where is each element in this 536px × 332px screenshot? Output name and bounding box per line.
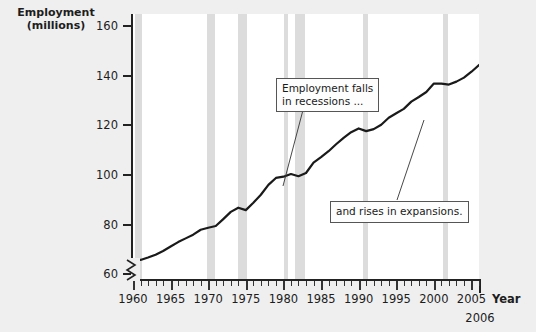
x-axis-minor-tick <box>456 281 457 286</box>
rises-in-expansions-callout: and rises in expansions. <box>330 201 469 223</box>
employment-falls-callout: Employment falls in recessions ... <box>276 78 379 112</box>
y-axis-label-slot: 60 <box>18 267 118 281</box>
x-axis-minor-tick <box>291 281 292 286</box>
y-axis-tick-label: 120 <box>18 118 118 132</box>
x-axis-tick-label: 1980 <box>263 292 303 306</box>
x-axis-minor-tick <box>216 281 217 286</box>
x-axis-minor-tick <box>193 281 194 286</box>
x-axis-minor-tick <box>336 281 337 286</box>
x-axis-minor-tick <box>268 281 269 286</box>
x-axis-minor-tick <box>389 281 390 286</box>
y-axis-tick-label: 140 <box>18 69 118 83</box>
x-axis-minor-tick <box>238 281 239 286</box>
x-axis-minor-tick <box>141 281 142 286</box>
y-axis-tick-label: 100 <box>18 168 118 182</box>
x-axis-minor-tick <box>366 281 367 286</box>
x-axis-major-tick <box>208 281 210 290</box>
x-axis-minor-tick <box>344 281 345 286</box>
x-axis-minor-tick <box>441 281 442 286</box>
x-axis-minor-tick <box>276 281 277 286</box>
x-axis-minor-tick <box>223 281 224 286</box>
x-axis-minor-tick <box>231 281 232 286</box>
x-axis-minor-tick <box>306 281 307 286</box>
chart-figure: Employment (millions) 6080100120140160 1… <box>0 0 536 332</box>
y-axis-label-slot: 140 <box>18 69 118 83</box>
x-axis-major-tick <box>359 281 361 290</box>
y-axis-tick-label: 80 <box>18 218 118 232</box>
y-axis-tick-label: 160 <box>18 19 118 33</box>
x-axis-minor-tick <box>374 281 375 286</box>
y-axis-label-slot: 100 <box>18 168 118 182</box>
employment-line-series <box>133 14 479 279</box>
x-axis-minor-tick <box>381 281 382 286</box>
y-axis-label-slot: 160 <box>18 19 118 33</box>
x-axis-major-tick <box>471 281 473 290</box>
y-axis-label-slot: 80 <box>18 218 118 232</box>
x-axis-minor-tick <box>178 281 179 286</box>
x-axis-minor-tick <box>186 281 187 286</box>
x-axis-major-tick <box>434 281 436 290</box>
x-axis-major-tick <box>133 281 135 290</box>
x-axis-end-label: 2006 <box>460 311 500 325</box>
y-axis-tick <box>123 224 131 226</box>
x-axis-major-tick <box>246 281 248 290</box>
x-axis-minor-tick <box>351 281 352 286</box>
x-axis-minor-tick <box>449 281 450 286</box>
x-axis-minor-tick <box>404 281 405 286</box>
y-axis-tick <box>123 124 131 126</box>
x-axis-tick-label: 1975 <box>226 292 266 306</box>
x-axis-major-tick <box>396 281 398 290</box>
x-axis-minor-tick <box>298 281 299 286</box>
x-axis-minor-tick <box>426 281 427 286</box>
y-axis-tick <box>123 273 131 275</box>
x-axis-minor-tick <box>314 281 315 286</box>
y-axis-label-slot: 120 <box>18 118 118 132</box>
x-axis-tick-label: 1960 <box>113 292 153 306</box>
y-axis-line <box>131 14 133 279</box>
x-axis-minor-tick <box>411 281 412 286</box>
x-axis-tick-label: 1985 <box>301 292 341 306</box>
x-axis-major-tick <box>283 281 285 290</box>
x-axis-minor-tick <box>419 281 420 286</box>
x-axis-tick-label: 1990 <box>339 292 379 306</box>
x-axis-tick-label: 2000 <box>414 292 454 306</box>
x-axis-minor-tick <box>253 281 254 286</box>
x-axis-minor-tick <box>156 281 157 286</box>
y-axis-tick <box>123 174 131 176</box>
x-axis-tick-label: 1965 <box>151 292 191 306</box>
x-axis-minor-tick <box>329 281 330 286</box>
x-axis-major-tick <box>321 281 323 290</box>
y-axis-tick <box>123 25 131 27</box>
x-axis-tick-label: 2005 <box>451 292 491 306</box>
x-axis-minor-tick <box>163 281 164 286</box>
plot-area <box>133 14 479 279</box>
x-axis-minor-tick <box>261 281 262 286</box>
x-axis-title: Year <box>492 292 521 306</box>
y-axis-tick-label: 60 <box>18 267 118 281</box>
x-axis-minor-tick <box>479 281 480 286</box>
x-axis-minor-tick <box>464 281 465 286</box>
x-axis-tick-label: 1995 <box>376 292 416 306</box>
y-axis-tick <box>123 75 131 77</box>
x-axis-minor-tick <box>201 281 202 286</box>
x-axis-minor-tick <box>148 281 149 286</box>
y-axis-break-icon <box>124 258 140 282</box>
x-axis-tick-label: 1970 <box>188 292 228 306</box>
x-axis-major-tick <box>171 281 173 290</box>
